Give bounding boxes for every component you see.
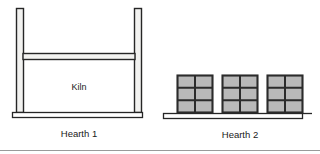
hearth-1-group: Kiln Hearth 1: [13, 9, 143, 140]
diagram-canvas: Kiln Hearth 1: [0, 0, 320, 154]
hearth-2-group: Hearth 2: [164, 75, 313, 140]
cross-beam: [23, 54, 135, 60]
left-post: [17, 9, 24, 113]
hearth-2-caption: Hearth 2: [222, 129, 258, 140]
brick-stack-3: [267, 75, 303, 113]
hearth-1-caption: Hearth 1: [61, 128, 97, 139]
hearth-1-baseline: [13, 113, 143, 118]
brick-stack-2: [222, 75, 258, 113]
hearth-2-baseline: [164, 114, 303, 119]
kiln-label: Kiln: [71, 82, 86, 92]
brick-stack-1: [177, 75, 213, 113]
right-post: [135, 9, 142, 113]
hearth-kiln-diagram: Kiln Hearth 1: [0, 0, 320, 154]
